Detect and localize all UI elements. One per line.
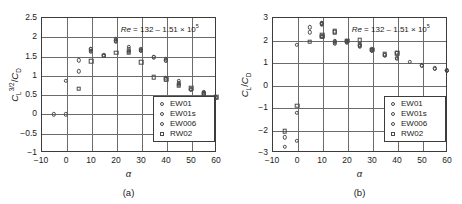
x-axis-tick-label: 20 <box>342 156 351 165</box>
data-point <box>307 39 312 44</box>
legend-item-ew01[interactable]: EW01 <box>157 99 210 109</box>
x-axis-tick-label: −10 <box>34 156 48 165</box>
legend-label: EW01 <box>170 100 192 108</box>
legend-label: EW01s <box>170 110 196 118</box>
data-point <box>189 86 194 91</box>
circle-marker-icon <box>157 112 167 116</box>
figure-container: −1−0.500.511.522.5−100102030405060αCL3/2… <box>0 0 462 204</box>
data-point <box>332 29 337 34</box>
data-point <box>139 60 144 65</box>
panel-subcaption: (a) <box>123 188 135 198</box>
y-axis-tick-label: 1.5 <box>10 51 37 60</box>
x-axis-tick-label: 60 <box>211 156 220 165</box>
panel-subcaption: (b) <box>354 188 366 198</box>
x-axis-tick-label: 40 <box>161 156 170 165</box>
y-axis-tick-label: 2.5 <box>10 13 37 22</box>
legend-label: EW006 <box>401 120 427 128</box>
x-axis-tick-label: 50 <box>417 156 426 165</box>
legend: EW01EW01sEW006RW02 <box>153 96 215 142</box>
x-axis-tick-label: 40 <box>392 156 401 165</box>
legend-item-ew006[interactable]: EW006 <box>388 119 441 129</box>
data-point <box>76 86 81 91</box>
legend-label: RW02 <box>401 130 423 138</box>
legend-item-ew01s[interactable]: EW01s <box>388 109 441 119</box>
data-point <box>114 51 119 56</box>
y-axis-tick-label: 1 <box>241 58 268 67</box>
legend: EW01EW01sEW006RW02 <box>384 96 446 142</box>
square-marker-icon <box>157 132 167 137</box>
gridline-vertical <box>298 18 299 151</box>
y-axis-tick-label: −2 <box>241 125 268 134</box>
legend-label: EW01 <box>401 100 423 108</box>
data-point <box>320 33 325 38</box>
x-axis-tick-label: 0 <box>295 156 300 165</box>
y-axis-title: CL/CD <box>240 72 252 97</box>
y-axis-tick-label: 2 <box>241 35 268 44</box>
x-axis-tick-label: −10 <box>265 156 279 165</box>
square-marker-icon <box>388 132 398 137</box>
x-axis-tick-label: 10 <box>317 156 326 165</box>
x-axis-tick-label: 20 <box>111 156 120 165</box>
gridline-vertical <box>67 18 68 151</box>
data-point <box>295 104 300 109</box>
reynolds-number-annotation: Re = 132 – 1.51 × 105 <box>352 24 430 34</box>
circle-marker-icon <box>157 122 167 126</box>
panel-a: −1−0.500.511.522.5−100102030405060αCL3/2… <box>0 0 231 204</box>
legend-label: EW01s <box>401 110 427 118</box>
data-point <box>89 59 94 64</box>
y-axis-tick-label: −1 <box>241 103 268 112</box>
y-axis-tick-label: 3 <box>241 13 268 22</box>
gridline-vertical <box>373 18 374 151</box>
panel-b: −3−2−10123−100102030405060αCL/CDRe = 132… <box>231 0 462 204</box>
legend-label: RW02 <box>170 130 192 138</box>
circle-marker-icon <box>388 102 398 106</box>
x-axis-tick-label: 60 <box>442 156 451 165</box>
y-axis-title: CL3/2/CD <box>9 68 23 102</box>
legend-label: EW006 <box>170 120 196 128</box>
data-point <box>382 52 387 57</box>
gridline-vertical <box>92 18 93 151</box>
x-axis-tick-label: 10 <box>86 156 95 165</box>
legend-item-rw02[interactable]: RW02 <box>388 129 441 139</box>
data-point <box>151 75 156 80</box>
data-point <box>445 68 449 72</box>
data-point <box>357 38 362 43</box>
legend-item-ew01s[interactable]: EW01s <box>157 109 210 119</box>
circle-marker-icon <box>388 122 398 126</box>
x-axis-tick-label: 30 <box>136 156 145 165</box>
data-point <box>176 83 181 88</box>
legend-item-ew006[interactable]: EW006 <box>157 119 210 129</box>
data-point <box>345 38 350 43</box>
gridline-vertical <box>142 18 143 151</box>
data-point <box>282 129 287 134</box>
data-point <box>164 77 169 82</box>
x-axis-tick-label: 0 <box>64 156 69 165</box>
x-axis-title: α <box>126 169 131 179</box>
legend-item-ew01[interactable]: EW01 <box>388 99 441 109</box>
x-axis-title: α <box>357 169 362 179</box>
reynolds-number-annotation: Re = 132 – 1.51 × 105 <box>121 24 199 34</box>
circle-marker-icon <box>388 112 398 116</box>
legend-item-rw02[interactable]: RW02 <box>157 129 210 139</box>
x-axis-tick-label: 30 <box>367 156 376 165</box>
y-axis-tick-label: −0.5 <box>10 128 37 137</box>
y-axis-tick-label: 2 <box>10 32 37 41</box>
y-axis-tick-label: 0 <box>10 109 37 118</box>
data-point <box>126 51 131 56</box>
x-axis-tick-label: 50 <box>186 156 195 165</box>
data-point <box>395 51 400 56</box>
data-point <box>101 53 106 58</box>
circle-marker-icon <box>157 102 167 106</box>
data-point <box>370 47 375 52</box>
